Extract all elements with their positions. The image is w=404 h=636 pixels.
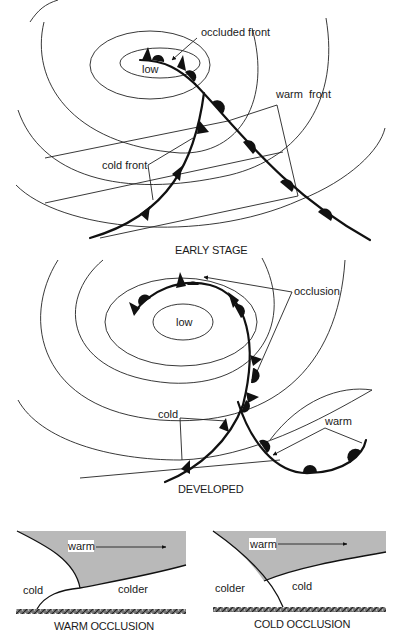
developed-leader-lines [80,277,362,478]
developed-warm-front-symbols [259,440,361,472]
occlusion-label: occlusion [294,285,340,297]
early-stage-caption: EARLY STAGE [175,244,247,256]
developed-caption: DEVELOPED [178,483,244,495]
warm-occlusion-caption: WARM OCCLUSION [54,620,154,632]
early-low-label: low [142,63,159,75]
warm-front-label: warm front [275,88,331,100]
warm-occlusion-cold-label: cold [23,584,43,596]
ground-surface [213,607,386,612]
warm-occlusion-panel: warm cold colder WARM OCCLUSION [16,531,186,632]
ground-surface [16,609,186,614]
warm-occlusion-warm-label: warm [67,540,95,552]
occluded-front-label: occluded front [201,26,270,38]
cold-occlusion-colder-label: colder [215,582,245,594]
developed-low-label: low [176,316,193,328]
developed-occlusion-symbols [129,272,262,413]
cold-occlusion-caption: COLD OCCLUSION [254,618,350,630]
frontal-depression-diagram: low occluded front warm front cold front… [0,0,404,636]
warm-air-mass [17,531,186,588]
cold-occlusion-warm-label: warm [249,538,277,550]
developed-warm-label: warm [324,415,352,427]
cold-front-label: cold front [102,159,147,171]
cold-occlusion-panel: warm colder cold COLD OCCLUSION [213,531,386,630]
early-stage-panel: low occluded front warm front cold front… [16,0,385,256]
developed-panel: low occlusion cold warm DEVELOPED [18,258,372,495]
developed-cold-label: cold [158,408,178,420]
cold-occlusion-cold-label: cold [292,580,312,592]
warm-occlusion-colder-label: colder [118,583,148,595]
